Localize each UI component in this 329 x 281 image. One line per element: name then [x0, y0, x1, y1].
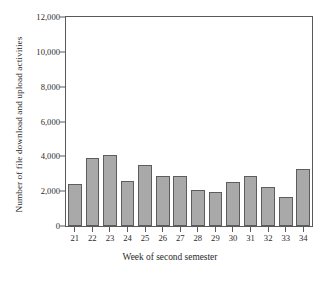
x-axis-tick-label: 23 [101, 233, 119, 247]
x-axis-tick-label: 24 [119, 233, 137, 247]
bar [156, 176, 170, 226]
x-axis-tick-slot [207, 227, 225, 232]
x-axis-tick-slot [224, 227, 242, 232]
x-axis-tick-mark [180, 227, 181, 232]
bar [138, 165, 152, 226]
x-axis-tick-label: 21 [66, 233, 84, 247]
y-axis-tick-label: 10,000 [36, 47, 60, 57]
x-axis-tick-label: 27 [171, 233, 189, 247]
x-axis-tick-slot [295, 227, 313, 232]
bar-slot [295, 17, 313, 226]
y-axis-tick-label: 12,000 [36, 12, 60, 22]
y-axis-tick-mark [60, 17, 65, 18]
bar-slot [171, 17, 189, 226]
x-axis-tick-label: 34 [295, 233, 313, 247]
y-axis-tick-mark [60, 121, 65, 122]
y-axis-tick-labels: 02,0004,0006,0008,00010,00012,000 [20, 14, 60, 228]
bar-slot [259, 17, 277, 226]
bar-chart-figure: Number of file download and upload activ… [0, 0, 329, 281]
x-axis-tick-mark [74, 227, 75, 232]
x-axis-tick-slot [154, 227, 172, 232]
bar [103, 155, 117, 226]
x-axis-tick-label: 28 [189, 233, 207, 247]
bar [244, 176, 258, 227]
x-axis-tick-mark [145, 227, 146, 232]
x-axis-tick-slot [84, 227, 102, 232]
x-axis-tick-mark [109, 227, 110, 232]
x-axis-tick-slot [189, 227, 207, 232]
x-axis-tick-slot [119, 227, 137, 232]
y-axis-tick-label: 4,000 [41, 151, 60, 161]
bar-slot [119, 17, 137, 226]
bar [226, 182, 240, 226]
y-axis-tick-label: 2,000 [41, 186, 60, 196]
bar-slot [189, 17, 207, 226]
bar-slot [66, 17, 84, 226]
x-axis-tick-label: 30 [224, 233, 242, 247]
x-axis-tick-slot [101, 227, 119, 232]
x-axis-tick-mark [162, 227, 163, 232]
y-axis-tick-mark [60, 86, 65, 87]
x-axis-tick-mark [303, 227, 304, 232]
x-axis-tick-labels: 2122232425262728293031323334 [66, 233, 312, 247]
x-axis-tick-mark [127, 227, 128, 232]
bar-slot [154, 17, 172, 226]
x-axis-tick-slot [259, 227, 277, 232]
x-axis-tick-mark [215, 227, 216, 232]
x-axis-tick-label: 31 [242, 233, 260, 247]
bar-series [66, 17, 312, 226]
bar [68, 184, 82, 226]
bar-slot [224, 17, 242, 226]
y-axis-tick-label: 6,000 [41, 117, 60, 127]
y-axis-tick-mark [60, 156, 65, 157]
bar-slot [277, 17, 295, 226]
x-axis-tick-mark [268, 227, 269, 232]
x-axis-tick-mark [232, 227, 233, 232]
x-axis-tick-label: 33 [277, 233, 295, 247]
x-axis-tick-slot [171, 227, 189, 232]
x-axis-tick-label: 25 [136, 233, 154, 247]
x-axis-tick-slot [136, 227, 154, 232]
bar-slot [242, 17, 260, 226]
x-axis-tick-slot [66, 227, 84, 232]
x-axis-tick-marks [66, 227, 312, 232]
x-axis-tick-mark [92, 227, 93, 232]
bar [279, 197, 293, 226]
x-axis-tick-label: 32 [259, 233, 277, 247]
x-axis-tick-mark [197, 227, 198, 232]
x-axis-tick-label: 29 [207, 233, 225, 247]
bar-slot [136, 17, 154, 226]
bar-slot [207, 17, 225, 226]
y-axis-tick-label: 8,000 [41, 82, 60, 92]
x-axis-tick-label: 22 [84, 233, 102, 247]
y-axis-tick-mark [60, 226, 65, 227]
x-axis-tick-mark [285, 227, 286, 232]
bar [261, 187, 275, 226]
bar [173, 176, 187, 226]
y-axis-tick-mark [60, 51, 65, 52]
bar [296, 169, 310, 226]
x-axis-tick-label: 26 [154, 233, 172, 247]
bar [121, 181, 135, 226]
x-axis-tick-mark [250, 227, 251, 232]
bar-slot [84, 17, 102, 226]
x-axis-tick-slot [277, 227, 295, 232]
bar [191, 190, 205, 226]
y-axis-tick-mark [60, 191, 65, 192]
x-axis-tick-slot [242, 227, 260, 232]
bar-slot [101, 17, 119, 226]
bar [86, 158, 100, 226]
x-axis-title: Week of second semester [40, 252, 300, 262]
bar [209, 192, 223, 226]
